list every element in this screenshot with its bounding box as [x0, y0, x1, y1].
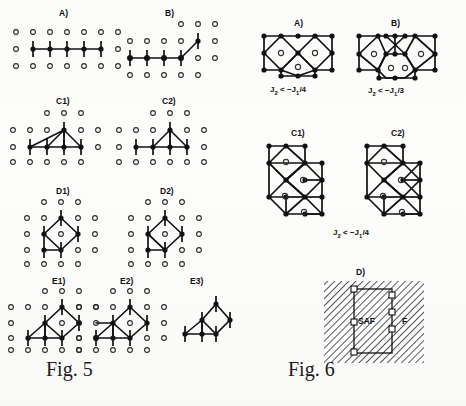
panel-fig6-A — [258, 30, 354, 82]
formula-C-denom: /4 — [362, 228, 369, 237]
figure-5-caption-text: Fig. 5 — [46, 358, 93, 380]
panel-fig5-E3 — [178, 294, 238, 350]
panel-fig6-C2 — [361, 140, 449, 222]
formula-fig6-B: J2 < −J1/3 — [368, 86, 404, 97]
formula-fig6-A: J2 < −J1/4 — [270, 85, 306, 96]
formula-C-relation: < − — [341, 228, 355, 237]
panel-label-fig5-E3: E3) — [190, 276, 203, 287]
panel-label-fig5-A: A) — [59, 8, 68, 19]
panel-fig6-D: SAF F — [322, 279, 430, 367]
figure-6-caption: Fig. 6 — [288, 358, 335, 381]
panel-fig6-B — [353, 30, 453, 84]
figure-6: A) J2 < −J1/ — [233, 0, 466, 406]
figure-6-caption-text: Fig. 6 — [288, 358, 335, 380]
figure-5: A) B) — [0, 0, 233, 406]
formula-B-relation: < − — [376, 86, 390, 95]
panel-label-fig5-D2: D2) — [160, 186, 174, 197]
panel-fig5-E2 — [78, 286, 182, 352]
phase-label-saf: SAF — [358, 316, 375, 326]
panel-label-fig5-D1: D1) — [56, 186, 70, 197]
panel-label-fig5-C1: C1) — [56, 96, 70, 107]
panel-label-fig5-C2: C2) — [162, 96, 176, 107]
panel-fig5-B — [118, 16, 230, 74]
phase-label-f: F — [402, 316, 407, 326]
panel-fig5-D2 — [120, 196, 218, 266]
formula-B-denom: /3 — [397, 86, 404, 95]
panel-fig5-A — [8, 24, 124, 74]
panel-label-fig5-E2: E2) — [120, 276, 133, 287]
formula-A-relation: < − — [278, 85, 292, 94]
panel-label-fig6-D: D) — [356, 267, 365, 278]
panel-fig5-C1 — [12, 106, 116, 166]
panel-label-fig5-E1: E1) — [52, 276, 65, 287]
panel-label-fig6-C2: C2) — [391, 128, 405, 139]
figure-5-caption: Fig. 5 — [46, 358, 93, 381]
panel-label-fig6-B: B) — [391, 18, 400, 29]
panel-fig5-C2 — [118, 106, 224, 166]
panel-label-fig6-C1: C1) — [291, 128, 305, 139]
panel-label-fig6-A: A) — [294, 18, 303, 29]
panel-fig6-C1 — [263, 140, 349, 222]
panel-fig5-D1 — [16, 196, 114, 266]
formula-fig6-C: J2 < −J1/4 — [333, 228, 369, 239]
formula-A-denom: /4 — [299, 85, 306, 94]
